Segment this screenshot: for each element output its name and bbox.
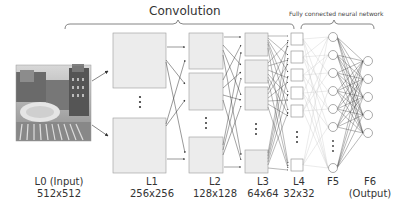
l4-ellipsis	[296, 131, 298, 143]
layer-name: L3	[243, 176, 283, 188]
input-arrows	[92, 71, 108, 136]
fully-connected-title: Fully connected neural network	[289, 10, 383, 17]
label-l1: L1 256x256	[127, 176, 177, 200]
l1-ellipsis	[139, 96, 141, 108]
layer-size: 256x256	[127, 188, 177, 200]
input-image	[16, 64, 91, 141]
fc-brace	[301, 20, 374, 29]
layer-name: L0 (Input)	[24, 176, 94, 188]
layer-size: (Output)	[345, 188, 395, 200]
label-l4: L4 32x32	[281, 176, 317, 200]
l2-ellipsis	[205, 117, 207, 129]
label-l2: L2 128x128	[190, 176, 240, 200]
layer-l4	[291, 33, 303, 171]
convolution-brace	[65, 20, 294, 29]
l1-l2-arrows	[166, 47, 185, 159]
layer-size: 64x64	[243, 188, 283, 200]
label-f5: F5	[321, 176, 345, 188]
cnn-diagram	[0, 0, 403, 204]
label-f6: F6 (Output)	[345, 176, 395, 200]
f5-f6-connections	[337, 37, 363, 168]
l3-ellipsis	[255, 123, 257, 135]
layer-l1	[113, 33, 166, 173]
layer-name: L4	[281, 176, 317, 188]
l2-l3-arrows	[223, 37, 241, 167]
label-l3: L3 64x64	[243, 176, 283, 200]
layer-name: F5	[321, 176, 345, 188]
layer-size: 128x128	[190, 188, 240, 200]
layer-name: L2	[190, 176, 240, 188]
f5-ellipsis	[332, 140, 334, 152]
l3-l4-arrows	[268, 36, 288, 170]
layer-f6	[364, 57, 373, 138]
label-l0: L0 (Input) 512x512	[24, 176, 94, 200]
layer-name: F6	[345, 176, 395, 188]
layer-name: L1	[127, 176, 177, 188]
layer-size: 512x512	[24, 188, 94, 200]
layer-l2	[189, 33, 223, 173]
convolution-title: Convolution	[149, 4, 221, 18]
layer-l3	[245, 33, 268, 173]
layer-size: 32x32	[281, 188, 317, 200]
l4-f5-connections	[303, 37, 328, 168]
